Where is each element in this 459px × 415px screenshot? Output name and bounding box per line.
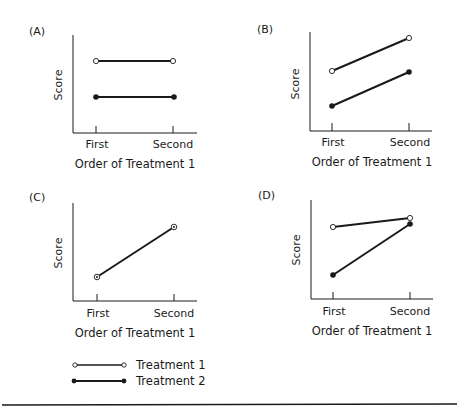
- panel-label: (B): [257, 23, 273, 36]
- panel-d: (D) Score First Second Order of Treatmen…: [258, 189, 433, 338]
- y-axis-label: Score: [52, 69, 65, 100]
- x-tick-label: Second: [154, 307, 194, 320]
- panel-label: (C): [29, 191, 45, 204]
- filled-circle-marker: [173, 226, 175, 228]
- filled-circle-icon: [122, 379, 127, 384]
- open-circle-marker: [330, 224, 335, 229]
- x-tick-label: First: [322, 305, 346, 318]
- x-axis-title: Order of Treatment 1: [312, 324, 433, 338]
- open-circle-marker: [93, 58, 98, 63]
- filled-circle-marker: [406, 69, 412, 75]
- open-circle-icon: [73, 363, 77, 367]
- legend-item-treatment-2: Treatment 2: [72, 374, 206, 388]
- open-circle-marker: [170, 58, 175, 63]
- x-axis-title: Order of Treatment 1: [75, 157, 196, 171]
- open-circle-marker: [406, 35, 411, 40]
- panel-label: (D): [258, 189, 275, 202]
- x-tick-label: First: [85, 138, 109, 151]
- panel-c: (C) Score First Second Order of Treatmen…: [29, 191, 197, 340]
- legend: Treatment 1 Treatment 2: [72, 358, 206, 388]
- y-axis-label: Score: [290, 234, 303, 265]
- filled-circle-marker: [171, 94, 177, 100]
- panel-label: (A): [29, 25, 45, 38]
- x-axis-title: Order of Treatment 1: [75, 326, 196, 340]
- filled-circle-marker: [330, 272, 336, 278]
- x-tick-label: First: [321, 136, 345, 149]
- x-tick-label: Second: [390, 305, 430, 318]
- x-axis-title: Order of Treatment 1: [312, 155, 433, 169]
- x-tick-label: First: [86, 307, 110, 320]
- y-axis-label: Score: [52, 237, 65, 268]
- x-tick-label: Second: [390, 136, 430, 149]
- panel-b: (B) Score First Second Order of Treatmen…: [257, 23, 432, 169]
- series-line-treatment-2: [332, 72, 409, 106]
- series-line-overlapping: [97, 227, 174, 277]
- panel-a: (A) Score First Second Order of Treatmen…: [29, 25, 197, 171]
- filled-circle-icon: [72, 379, 77, 384]
- series-line-treatment-1: [332, 38, 409, 71]
- filled-circle-marker: [329, 103, 335, 109]
- legend-label: Treatment 1: [135, 358, 206, 372]
- bottom-rule-divider: [2, 404, 457, 405]
- legend-item-treatment-1: Treatment 1: [73, 358, 206, 372]
- figure: (A) Score First Second Order of Treatmen…: [0, 0, 459, 415]
- filled-circle-marker: [407, 221, 413, 227]
- x-tick-label: Second: [153, 138, 193, 151]
- open-circle-marker: [329, 68, 334, 73]
- y-axis-label: Score: [289, 68, 302, 99]
- open-circle-icon: [122, 363, 126, 367]
- series-line-treatment-1: [333, 218, 410, 227]
- series-line-treatment-2: [333, 224, 410, 275]
- filled-circle-marker: [96, 276, 98, 278]
- legend-label: Treatment 2: [135, 374, 206, 388]
- filled-circle-marker: [93, 94, 99, 100]
- open-circle-marker: [407, 215, 412, 220]
